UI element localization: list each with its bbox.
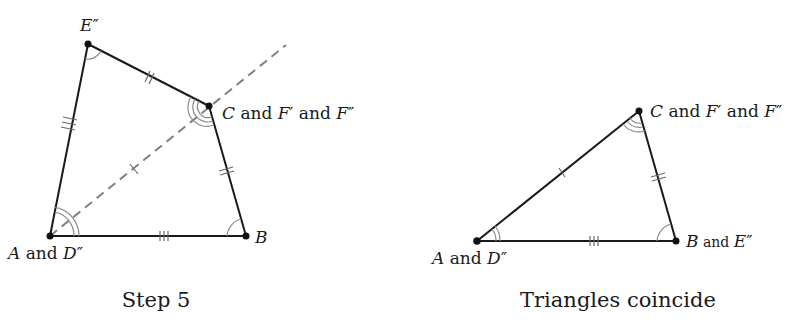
diagram-canvas: E″ C and F′ and F″ A and D″ B Step 5 — [0, 0, 810, 333]
figure-step5: E″ C and F′ and F″ A and D″ B Step 5 — [6, 15, 354, 312]
label-e: E″ — [79, 15, 99, 35]
angle-arc-b — [227, 219, 241, 236]
point-c — [636, 108, 643, 115]
angle-arc-b — [657, 224, 671, 241]
label-a: A and D″ — [430, 248, 507, 268]
point-c — [206, 103, 213, 110]
point-e — [85, 41, 92, 48]
label-b: B and E″ — [685, 231, 753, 251]
point-a — [473, 237, 481, 245]
label-b: B — [254, 227, 268, 247]
caption-coincide: Triangles coincide — [520, 288, 716, 312]
label-c: C and F′ and F″ — [222, 103, 354, 123]
label-c: C and F′ and F″ — [650, 101, 782, 121]
tick-marks-a-e — [61, 117, 77, 130]
angle-arc-e — [85, 51, 101, 59]
figure-coincide: C and F′ and F″ A and D″ B and E″ Triang… — [430, 101, 782, 312]
side-a-c — [477, 111, 639, 241]
caption-step5: Step 5 — [122, 288, 191, 312]
side-c-b — [639, 111, 676, 241]
point-b — [673, 238, 680, 245]
point-b — [243, 233, 250, 240]
label-a: A and D″ — [6, 243, 83, 263]
point-a — [47, 233, 54, 240]
dashed-line-ac — [50, 45, 286, 236]
side-c-b — [209, 106, 246, 236]
